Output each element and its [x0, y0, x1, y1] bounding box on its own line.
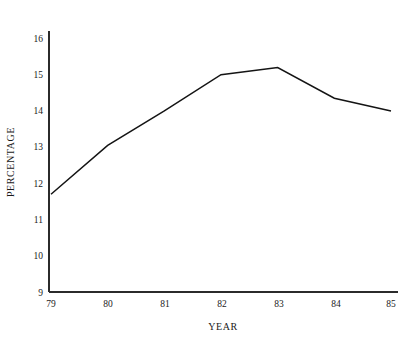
- y-tick-label: 16: [34, 34, 44, 44]
- y-axis-title: PERCENTAGE: [5, 127, 16, 197]
- x-tick-label: 85: [386, 299, 396, 309]
- y-tick-label: 13: [34, 142, 44, 152]
- data-series-line: [51, 67, 391, 194]
- y-tick-label: 12: [34, 179, 44, 189]
- x-tick-label: 82: [217, 299, 227, 309]
- y-tick-label: 11: [34, 215, 43, 225]
- y-tick-label: 15: [34, 70, 44, 80]
- x-tick-label: 81: [160, 299, 170, 309]
- chart-canvas: 16 15 14 13 12 11 10 9 79 80 81 82 83 84…: [0, 0, 405, 342]
- line-chart-figure: 16 15 14 13 12 11 10 9 79 80 81 82 83 84…: [0, 0, 405, 342]
- x-tick-label: 83: [274, 299, 284, 309]
- x-tick-label: 79: [46, 299, 56, 309]
- y-axis-tick-labels: 16 15 14 13 12 11 10 9: [34, 34, 44, 298]
- x-tick-label: 80: [103, 299, 113, 309]
- x-axis-title: YEAR: [208, 321, 238, 332]
- x-axis-tick-labels: 79 80 81 82 83 84 85: [46, 299, 396, 309]
- y-tick-label: 9: [38, 288, 43, 298]
- y-tick-label: 10: [34, 251, 44, 261]
- x-tick-label: 84: [331, 299, 341, 309]
- y-tick-label: 14: [34, 106, 44, 116]
